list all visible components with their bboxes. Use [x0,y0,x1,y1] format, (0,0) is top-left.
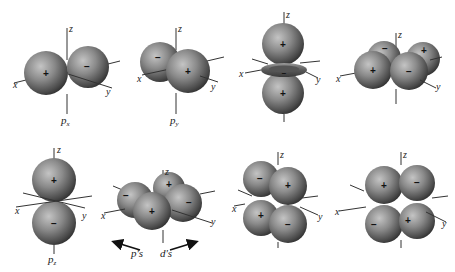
sign: + [258,210,264,221]
x-label: x [14,205,20,216]
sign: − [123,190,129,201]
x-axis [339,207,366,211]
x-label: x [335,73,341,84]
caption: px [60,114,71,128]
orbital-dz2: + − + z x y [238,9,321,122]
y-axis-back [300,61,320,63]
y-label: y [81,210,87,221]
sign: + [421,45,427,56]
z-label: z [164,166,169,177]
sign: − [282,69,287,78]
orbital-px: + − z x y px [12,23,120,128]
x-label: x [238,68,244,79]
arrow-left-label: p's [130,247,143,259]
sign: − [186,197,192,208]
sign: + [285,180,291,191]
y-label: y [435,81,441,92]
orbital-diagram: + − z x y px − + z x y py + − + [0,0,455,272]
arrow-right-icon [170,242,196,250]
x-axis [245,70,261,73]
x-label: x [334,206,340,217]
y-label: y [210,81,216,92]
z-label: z [177,23,182,34]
sign: + [51,175,57,186]
sign: + [149,206,155,217]
sign: + [370,65,376,76]
orbital-dxy: − + + − z x y [335,29,442,104]
caption: pz [47,253,57,267]
sign: + [43,68,49,79]
x-label: x [100,210,106,221]
sign: − [382,43,388,54]
y-label: y [315,74,321,85]
y-axis-back [302,196,318,198]
z-label: z [397,29,402,40]
z-label: z [285,9,290,20]
sign: + [381,180,387,191]
x-label: x [12,79,18,90]
x-axis [340,73,356,76]
y-axis-back [432,196,448,198]
y-label: y [105,86,111,97]
orbital-pz: + − z x y pz [14,144,92,267]
sign: − [285,219,291,230]
y-axis-back [207,57,224,61]
sign: + [405,215,411,226]
caption: py [169,114,180,128]
orbital-dx2y2: − + − + z x y p's d's [100,166,216,259]
sign: − [371,219,377,230]
x-axis-back [252,59,268,64]
x-axis-back [108,61,120,64]
sign: − [406,66,412,77]
sign: − [51,218,57,229]
z-label: z [279,149,284,160]
y-label: y [317,211,323,222]
y-label: y [441,218,447,229]
orbital-dyz: − + + − z x y [231,149,323,248]
z-label: z [56,144,61,155]
sign: + [166,179,172,190]
orbital-py: − + z x y py [136,23,224,128]
sign: + [280,39,286,50]
sign: + [185,66,191,77]
sign: − [414,177,420,188]
z-label: z [68,23,73,34]
x-label: x [136,73,142,84]
y-axis-back [200,191,215,194]
sign: + [280,88,286,99]
y-label: y [210,216,216,227]
x-axis-back [350,185,364,191]
sign: − [257,173,263,184]
arrow-right-label: d's [160,247,172,259]
x-label: x [231,203,237,214]
sign: − [155,52,161,63]
z-label: z [402,149,407,160]
orbital-dxz: + − − + z x y [334,149,448,248]
sign: − [84,61,90,72]
